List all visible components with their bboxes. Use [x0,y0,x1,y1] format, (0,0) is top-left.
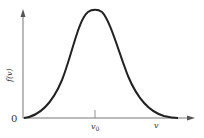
y-axis-arrow-icon [21,9,26,17]
origin-label: 0 [11,113,17,124]
y-axis-label: f(v) [5,68,14,83]
distribution-diagram: 0 f(v) v0 v [0,0,204,138]
distribution-curve [24,10,178,118]
v0-label: v0 [91,122,100,132]
x-axis-arrow-icon [187,116,195,121]
x-axis-label: v [154,121,159,130]
